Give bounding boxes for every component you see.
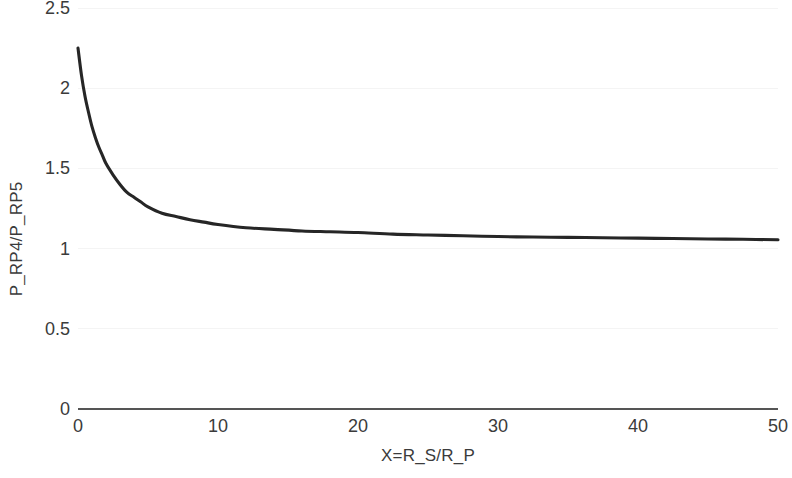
x-tick-label: 40 — [598, 417, 678, 435]
y-tick-label: 0.5 — [0, 320, 70, 338]
data-curve — [78, 48, 778, 240]
plot-area — [78, 8, 778, 409]
x-tick-label: 0 — [38, 417, 118, 435]
data-series-group — [78, 48, 778, 240]
y-tick-label: 2 — [0, 79, 70, 97]
x-axis-title: X=R_S/R_P — [78, 446, 778, 466]
y-tick-label: 1 — [0, 240, 70, 258]
x-tick-label: 10 — [178, 417, 258, 435]
y-tick-label: 1.5 — [0, 159, 70, 177]
x-tick-label: 20 — [318, 417, 398, 435]
gridline-group — [78, 8, 778, 329]
y-tick-label: 2.5 — [0, 0, 70, 17]
x-tick-label: 50 — [738, 417, 792, 435]
plot-svg — [78, 8, 778, 409]
y-tick-label: 0 — [0, 400, 70, 418]
x-tick-label: 30 — [458, 417, 538, 435]
